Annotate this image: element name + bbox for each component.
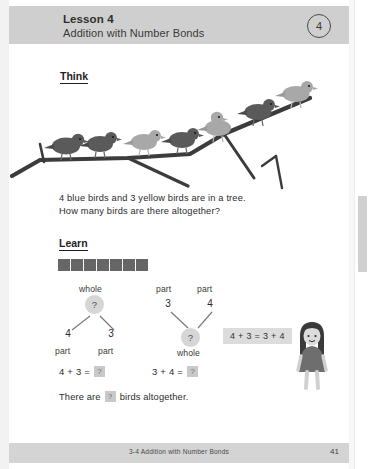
footer-lesson-title: 3-4 Addition with Number Bonds	[129, 448, 229, 455]
unit-cube	[97, 259, 109, 271]
equation-1-expression: 4 + 3 =	[59, 366, 90, 377]
unit-cube	[71, 259, 83, 271]
equation-row-1: 4 + 3 = ?	[59, 366, 105, 377]
word-problem-line-2: How many birds are there altogether?	[59, 205, 246, 218]
equation-2-expression: 3 + 4 =	[152, 366, 183, 377]
learn-section-heading: Learn	[59, 237, 88, 251]
unit-cube	[58, 259, 70, 271]
left-margin-strip	[0, 0, 9, 469]
lesson-header-band: Lesson 4 Addition with Number Bonds 4	[9, 6, 349, 44]
word-problem-text: 4 blue birds and 3 yellow birds are in a…	[59, 192, 246, 218]
unit-cube	[123, 259, 135, 271]
unit-cube	[136, 259, 148, 271]
unit-cube	[110, 259, 122, 271]
callout-tail-dot-large	[281, 340, 285, 344]
birds-on-branch-illustration	[10, 78, 350, 190]
bond-left-whole-value: ?	[85, 295, 104, 314]
bird-blue-1	[44, 134, 89, 160]
bond-right-part-a-value: 3	[161, 298, 175, 309]
bird-blue-2	[79, 132, 122, 158]
footer-page-number: 41	[330, 447, 339, 456]
summary-prefix: There are	[59, 392, 101, 402]
lesson-subtitle: Addition with Number Bonds	[63, 26, 204, 40]
vertical-scrollbar-thumb[interactable]	[358, 196, 367, 272]
equation-1-answer-box[interactable]: ?	[94, 366, 105, 377]
lesson-label: Lesson 4	[63, 13, 204, 26]
vertical-scrollbar-track[interactable]	[354, 0, 371, 469]
word-problem-line-1: 4 blue birds and 3 yellow birds are in a…	[59, 192, 246, 205]
number-bond-whole-on-bottom: part part 3 4 ? whole	[152, 284, 256, 360]
bond-left-whole-caption: whole	[79, 284, 102, 294]
bond-right-part-b-value: 4	[203, 298, 217, 309]
textbook-page: Lesson 4 Addition with Number Bonds 4 Th…	[0, 0, 371, 469]
unit-cube-bar	[58, 259, 148, 271]
summary-sentence: There are ? birds altogether.	[59, 391, 188, 402]
bird-yellow-1	[123, 130, 166, 156]
lesson-header-title-group: Lesson 4 Addition with Number Bonds	[63, 13, 204, 40]
chapter-number-badge: 4	[307, 14, 331, 38]
bond-right-part-b-caption: part	[197, 284, 212, 294]
bond-right-whole-value: ?	[181, 328, 200, 347]
unit-cube	[84, 259, 96, 271]
bond-left-part-b-value: 3	[104, 328, 118, 339]
bond-right-part-a-caption: part	[156, 284, 171, 294]
page-footer-band: 3-4 Addition with Number Bonds 41	[9, 443, 349, 463]
bond-left-part-b-caption: part	[98, 346, 113, 356]
summary-answer-box[interactable]: ?	[105, 391, 116, 402]
bond-right-whole-caption: whole	[177, 348, 200, 358]
number-bond-whole-on-top: whole ? 4 3 part part	[52, 284, 156, 360]
equation-row-2: 3 + 4 = ?	[152, 366, 198, 377]
bond-left-part-a-caption: part	[55, 346, 70, 356]
girl-character-illustration	[288, 318, 336, 394]
bond-left-part-a-value: 4	[61, 328, 75, 339]
summary-suffix: birds altogether.	[120, 392, 189, 402]
equation-2-answer-box[interactable]: ?	[187, 366, 198, 377]
